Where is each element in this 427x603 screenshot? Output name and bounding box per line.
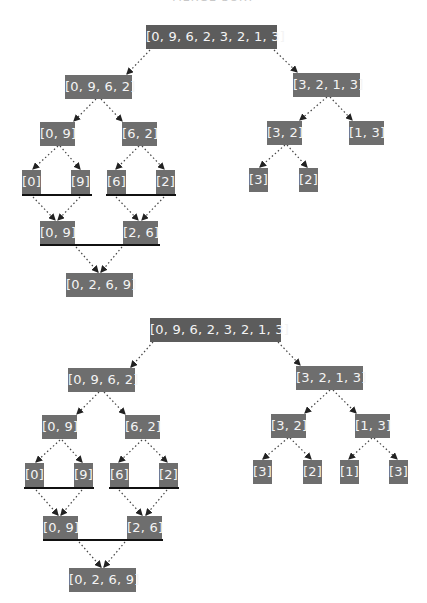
merged-node: [0, 9] <box>40 221 75 245</box>
leaf-node: [2] <box>159 463 178 487</box>
merge-bar <box>40 244 160 246</box>
leaf-node: [3] <box>249 168 268 192</box>
merged-node: [0, 9] <box>43 516 78 540</box>
sorted-result-node: [0, 2, 6, 9] <box>66 273 133 297</box>
leaf-node: [0] <box>25 463 44 487</box>
split-node-left: [0, 9, 6, 2] <box>68 368 135 392</box>
split-node-right: [3, 2, 1, 3] <box>296 366 363 390</box>
leaf-node: [3] <box>253 460 272 484</box>
leaf-node: [0] <box>22 170 41 194</box>
sorted-result-node: [0, 2, 6, 9] <box>69 568 136 592</box>
split-node: [0, 9] <box>40 122 75 146</box>
merged-node: [2, 6] <box>123 221 158 245</box>
leaf-node: [3] <box>389 460 408 484</box>
leaf-node: [6] <box>107 170 126 194</box>
leaf-node: [2] <box>303 460 322 484</box>
leaf-node: [1] <box>340 460 359 484</box>
split-node: [0, 9] <box>42 415 77 439</box>
split-node: [3, 2] <box>267 121 302 145</box>
split-node: [6, 2] <box>125 415 160 439</box>
merge-bar <box>109 487 179 489</box>
leaf-node: [2] <box>156 170 175 194</box>
leaf-node: [2] <box>299 168 318 192</box>
merge-bar <box>24 487 94 489</box>
merged-node: [2, 6] <box>127 516 162 540</box>
leaf-node: [9] <box>71 170 90 194</box>
split-node: [6, 2] <box>122 122 157 146</box>
leaf-node: [9] <box>74 463 93 487</box>
split-node-right: [3, 2, 1, 3] <box>293 73 360 97</box>
merge-bar <box>106 194 176 196</box>
split-node: [3, 2] <box>271 414 306 438</box>
root-node: [0, 9, 6, 2, 3, 2, 1, 3] <box>150 318 281 342</box>
split-node: [1, 3] <box>355 414 390 438</box>
root-node: [0, 9, 6, 2, 3, 2, 1, 3] <box>146 25 277 49</box>
split-node-left: [0, 9, 6, 2] <box>65 75 132 99</box>
merge-bar <box>22 194 92 196</box>
leaf-node: [6] <box>110 463 129 487</box>
merge-bar <box>43 539 163 541</box>
split-node: [1, 3] <box>349 121 384 145</box>
